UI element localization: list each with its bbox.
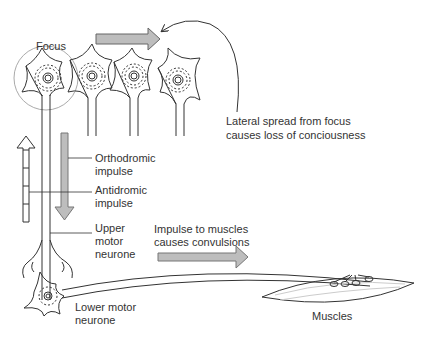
orthodromic-arrow-icon	[55, 133, 74, 220]
seizure-spread-diagram: Focus Lateral spread from focus causes l…	[0, 0, 431, 337]
lateral-spread-label-line1: Lateral spread from focus	[226, 115, 351, 128]
orthodromic-label-line2: impulse	[95, 165, 133, 178]
orthodromic-label-line1: Orthodromic	[95, 152, 156, 165]
neuron-3	[110, 48, 152, 136]
lower-motor-label-line1: Lower motor	[75, 301, 136, 314]
upper-motor-label-line2: motor	[95, 235, 123, 248]
neuron-4	[158, 48, 200, 136]
lower-motor-label-line2: neurone	[75, 314, 115, 327]
antidromic-label-line2: impulse	[95, 197, 133, 210]
convulsion-label-line1: Impulse to muscles	[154, 223, 248, 236]
focus-circle	[14, 46, 78, 110]
upper-motor-label-line1: Upper	[95, 222, 125, 235]
convulsion-arrow-icon	[158, 246, 248, 268]
neuron-2	[68, 44, 112, 136]
convulsion-label-line2: causes convulsions	[154, 236, 249, 249]
focus-label: Focus	[36, 40, 66, 53]
antidromic-label-line1: Antidromic	[95, 184, 147, 197]
lateral-spread-arrow-icon	[96, 28, 160, 50]
antidromic-arrow-icon	[17, 136, 35, 222]
lateral-spread-label-line2: causes loss of conciousness	[226, 129, 365, 142]
upper-motor-neurone-terminals	[23, 240, 73, 278]
muscles-label: Muscles	[312, 310, 352, 323]
muscle	[262, 275, 414, 302]
upper-motor-label-line3: neurone	[95, 248, 135, 261]
